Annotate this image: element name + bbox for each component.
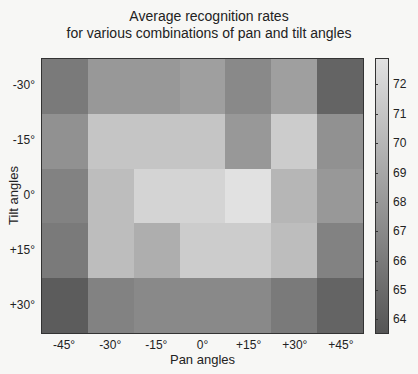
heatmap-cell [42,59,88,114]
heatmap-cell [271,59,317,114]
x-tick-label: 0° [197,338,208,352]
colorbar-tick-label: 66 [393,254,406,268]
heatmap-cell [225,278,271,333]
heatmap-cell [225,114,271,169]
colorbar [375,58,389,334]
colorbar-tick-mark [375,84,378,85]
colorbar-tick-label: 72 [393,77,406,91]
colorbar-tick-label: 64 [393,312,406,326]
colorbar-tick-mark [375,231,378,232]
x-tick-label: -45° [53,338,75,352]
heatmap-cell [88,114,134,169]
heatmap-cell [180,278,226,333]
y-tick-label: -30° [13,78,35,92]
x-tick-label: -15° [145,338,167,352]
colorbar-tick-label: 71 [393,107,406,121]
chart-subtitle: for various combinations of pan and tilt… [0,25,418,42]
y-tick-label: +15° [10,243,35,257]
colorbar-tick-label: 70 [393,136,406,150]
heatmap-cell [88,169,134,224]
heatmap-cell [317,59,363,114]
heatmap-cell [225,169,271,224]
heatmap-cell [88,278,134,333]
colorbar-tick-mark [375,261,378,262]
heatmap-cell [271,278,317,333]
colorbar-tick-mark [375,173,378,174]
heatmap-cell [317,114,363,169]
heatmap-cell [271,169,317,224]
heatmap-cell [88,59,134,114]
heatmap-cell [317,223,363,278]
y-tick-label: 0° [24,188,35,202]
colorbar-tick-label: 67 [393,224,406,238]
x-tick-label: +30° [282,338,307,352]
x-tick-label: -30° [99,338,121,352]
heatmap-cell [134,169,180,224]
heatmap-cell [42,223,88,278]
x-tick-label: +15° [236,338,261,352]
y-axis-label: Tilt angles [6,161,21,231]
heatmap-cell [180,59,226,114]
heatmap-cell [134,59,180,114]
colorbar-tick-label: 68 [393,195,406,209]
colorbar-tick-mark [375,114,378,115]
y-tick-label: +30° [10,298,35,312]
heatmap-cell [88,223,134,278]
x-axis-label: Pan angles [41,352,364,367]
colorbar-tick-mark [375,143,378,144]
heatmap-cell [180,223,226,278]
heatmap-cell [317,169,363,224]
colorbar-tick-mark [375,319,378,320]
heatmap-cell [271,114,317,169]
colorbar-tick-mark [375,290,378,291]
heatmap-plot [41,58,364,334]
heatmap-cell [42,169,88,224]
heatmap-cell [42,278,88,333]
heatmap-cell [225,223,271,278]
heatmap-cell [42,114,88,169]
heatmap-cell [134,223,180,278]
heatmap-cell [134,114,180,169]
colorbar-tick-mark [375,202,378,203]
heatmap-cell [180,169,226,224]
heatmap-cell [180,114,226,169]
chart-title: Average recognition rates [0,8,418,25]
heatmap-cell [317,278,363,333]
colorbar-tick-label: 69 [393,166,406,180]
heatmap-cell [225,59,271,114]
colorbar-tick-label: 65 [393,283,406,297]
heatmap-cell [134,278,180,333]
x-tick-label: +45° [328,338,353,352]
y-tick-label: -15° [13,133,35,147]
heatmap-cell [271,223,317,278]
